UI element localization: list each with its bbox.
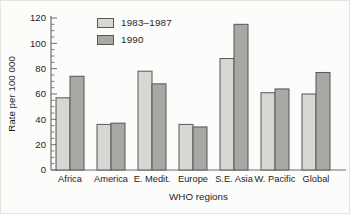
bar-america-1990 [111, 123, 125, 170]
bar-europe-1990 [193, 127, 207, 170]
y-tick-label-80: 80 [35, 63, 46, 74]
legend-swatch-1990 [97, 35, 114, 45]
bar-s-e-asia-1990 [234, 24, 248, 170]
y-axis-title: Rate per 100 000 [6, 56, 17, 132]
bar-e-medit-1983-1987 [138, 71, 152, 170]
y-tick-label-40: 40 [35, 114, 46, 125]
bar-africa-1990 [70, 76, 84, 170]
legend-item-1990: 1990 [97, 31, 172, 48]
x-tick-label-europe: Europe [178, 174, 208, 184]
y-tick-label-60: 60 [35, 88, 46, 99]
legend-item-1983-1987: 1983–1987 [97, 14, 172, 31]
bar-global-1983-1987 [302, 94, 316, 170]
legend-swatch-1983-1987 [97, 18, 114, 28]
bar-chart-figure: 020406080100120AfricaAmericaE. Medit.Eur… [0, 0, 350, 214]
y-tick-label-0: 0 [41, 164, 46, 175]
bar-europe-1983-1987 [179, 124, 193, 170]
x-tick-label-w-pacific: W. Pacific [255, 174, 296, 184]
bar-w-pacific-1990 [275, 89, 289, 170]
bar-w-pacific-1983-1987 [261, 93, 275, 170]
y-tick-label-120: 120 [30, 12, 46, 23]
chart-legend: 1983–1987 1990 [97, 14, 172, 48]
x-tick-label-s-e-asia: S.E. Asia [215, 174, 254, 184]
x-tick-label-america: America [94, 174, 129, 184]
bar-s-e-asia-1983-1987 [220, 59, 234, 170]
bar-global-1990 [316, 72, 330, 170]
legend-label-1990: 1990 [121, 34, 144, 45]
bar-e-medit-1990 [152, 84, 166, 170]
x-tick-label-e-medit: E. Medit. [134, 174, 171, 184]
y-tick-label-20: 20 [35, 139, 46, 150]
x-axis-title: WHO regions [169, 191, 228, 202]
chart-canvas: 020406080100120AfricaAmericaE. Medit.Eur… [1, 1, 350, 214]
legend-label-1983-1987: 1983–1987 [121, 17, 172, 28]
bar-africa-1983-1987 [56, 98, 70, 170]
x-tick-label-global: Global [303, 174, 330, 184]
y-tick-label-100: 100 [30, 38, 46, 49]
x-tick-label-africa: Africa [58, 174, 83, 184]
bar-america-1983-1987 [97, 124, 111, 170]
